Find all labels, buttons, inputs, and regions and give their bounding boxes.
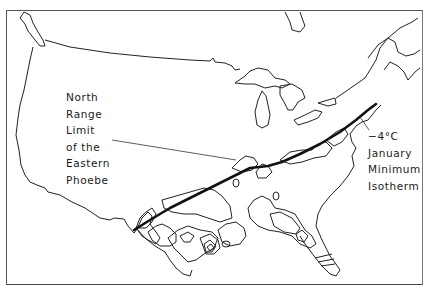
range-limit-label-line: Phoebe [66, 172, 110, 189]
range-limit-label-line: Eastern [66, 155, 110, 172]
range-limit-label-line: North [66, 89, 110, 106]
lake-ontario [318, 98, 336, 106]
atlantic-coast [316, 126, 356, 226]
st-lawrence-coast [336, 18, 418, 98]
florida-band-3 [321, 264, 335, 266]
gulf-coast-texas [137, 229, 192, 276]
nova-scotia-coast [384, 62, 420, 80]
isotherm-label-line: −4°C [368, 128, 421, 145]
range-limit-label-line: Limit [66, 122, 110, 139]
range-island-1 [233, 179, 239, 187]
lake-superior [235, 68, 290, 88]
isotherm-label-line: January [368, 145, 421, 162]
west-coast [16, 47, 48, 192]
lake-michigan [255, 91, 270, 128]
puget-sound-outline [20, 12, 45, 46]
range-contour-inner-1 [180, 232, 194, 242]
gaspe-coast [368, 38, 420, 58]
range-limit-label-line: Range [66, 106, 110, 123]
florida-band-2 [318, 259, 334, 262]
north-america-map [0, 0, 428, 290]
isotherm-label-line: Isotherm [368, 178, 421, 195]
range-limit-label-line: of the [66, 139, 110, 156]
range-limit-label: North Range Limit of the Eastern Phoebe [66, 89, 110, 188]
lake-erie [294, 110, 322, 125]
isotherm-label-line: Minimum [368, 161, 421, 178]
canada-us-border-west [45, 40, 240, 70]
isotherm-label: −4°C January Minimum Isotherm [368, 128, 421, 194]
lake-huron [280, 84, 305, 110]
mexico-border [48, 192, 137, 233]
hudson-bay-coast [285, 12, 305, 32]
range-limit-pointer [112, 140, 236, 160]
range-island-2 [273, 192, 279, 200]
